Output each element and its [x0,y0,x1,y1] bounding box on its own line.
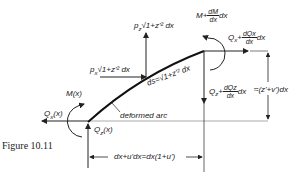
qx-right-label: Qx+dQxdxdx [228,30,265,45]
qx-left-label: Qx(x) [44,110,63,120]
pz-label: pz√1+z'² dx [134,22,174,32]
m-right-arrow [203,36,225,70]
px-label: px√1+z'² dx [90,66,130,76]
horizontal-dimension-label: dx+u'dx=dx(1+u') [114,153,175,161]
qz-left-label: Qz(x) [94,126,113,136]
m-right-label: M+dMdxdx [196,8,228,23]
vertical-dimension-label: ≈(z'+v')dx [254,86,288,94]
qz-right-label: Qz+dQzdxdx [209,84,246,99]
figure-caption: Figure 10.11 [2,140,53,151]
deformed-arc-label: deformed arc [120,112,167,120]
m-left-label: M(x) [66,90,82,98]
